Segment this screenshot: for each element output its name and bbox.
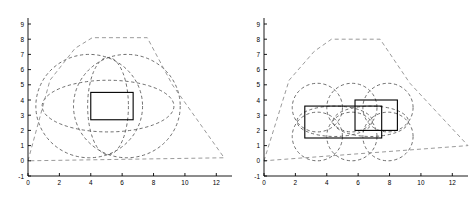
y-tick-label: 3	[20, 112, 24, 119]
chart-panel-left: -10123456789024681012	[0, 0, 236, 201]
y-tick-label: 6	[20, 66, 24, 73]
series-rectangles	[91, 92, 133, 119]
data-rectangle	[355, 100, 397, 130]
x-tick-label: 2	[58, 179, 62, 186]
y-tick-label: 2	[20, 127, 24, 134]
y-tick-label: 1	[256, 142, 260, 149]
y-tick-label: 8	[20, 36, 24, 43]
y-tick-label: 5	[20, 81, 24, 88]
figure-root: -10123456789024681012 -10123456789024681…	[0, 0, 472, 201]
plot-svg-left: -10123456789024681012	[0, 0, 236, 201]
y-tick-label: 9	[20, 21, 24, 28]
x-tick-label: 2	[294, 179, 298, 186]
x-tick-label: 6	[356, 179, 360, 186]
axes: -10123456789024681012	[254, 18, 468, 186]
y-tick-label: 7	[256, 51, 260, 58]
series-hull	[28, 38, 224, 161]
y-tick-label: 4	[20, 97, 24, 104]
hull-outline	[28, 38, 224, 161]
y-tick-label: 1	[20, 142, 24, 149]
y-tick-label: -1	[254, 173, 260, 180]
y-tick-label: -1	[18, 173, 24, 180]
x-tick-label: 6	[120, 179, 124, 186]
y-tick-label: 6	[256, 66, 260, 73]
x-tick-label: 12	[213, 179, 221, 186]
y-tick-label: 8	[256, 36, 260, 43]
data-circle	[74, 54, 181, 157]
x-tick-label: 0	[262, 179, 266, 186]
data-ellipse	[42, 80, 174, 132]
x-tick-label: 0	[26, 179, 30, 186]
x-tick-label: 8	[152, 179, 156, 186]
x-tick-label: 8	[388, 179, 392, 186]
y-tick-label: 9	[256, 21, 260, 28]
data-ellipse	[297, 106, 372, 136]
axes: -10123456789024681012	[18, 18, 232, 186]
x-tick-label: 12	[449, 179, 457, 186]
y-tick-label: 3	[256, 112, 260, 119]
y-tick-label: 5	[256, 81, 260, 88]
x-tick-label: 4	[325, 179, 329, 186]
x-tick-label: 4	[89, 179, 93, 186]
y-tick-label: 0	[20, 157, 24, 164]
data-rectangle	[305, 106, 382, 138]
data-ellipse	[88, 57, 129, 154]
x-tick-label: 10	[417, 179, 425, 186]
data-rectangle	[91, 92, 133, 119]
y-tick-label: 4	[256, 97, 260, 104]
y-tick-label: 0	[256, 157, 260, 164]
plot-svg-right: -10123456789024681012	[236, 0, 472, 201]
series-circles	[292, 83, 413, 161]
chart-panel-right: -10123456789024681012	[236, 0, 472, 201]
x-tick-label: 10	[181, 179, 189, 186]
y-tick-label: 7	[20, 51, 24, 58]
series-circles	[36, 54, 180, 157]
y-tick-label: 2	[256, 127, 260, 134]
